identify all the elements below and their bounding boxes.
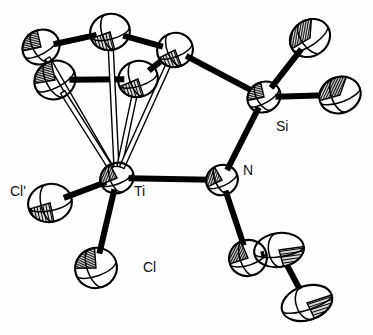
bond-C8-C9	[261, 254, 264, 255]
label-cl: Cl	[143, 259, 156, 275]
bond-Ti-N	[129, 178, 211, 180]
label-cl-prime: Cl'	[10, 183, 26, 199]
label-ti: Ti	[134, 183, 145, 199]
ortep-figure: SiNTiCl'Cl	[0, 0, 373, 335]
bond-C3-C4	[69, 79, 124, 80]
label-si: Si	[276, 118, 288, 134]
label-n: N	[243, 162, 253, 178]
ortep-diagram: SiNTiCl'Cl	[0, 0, 373, 335]
